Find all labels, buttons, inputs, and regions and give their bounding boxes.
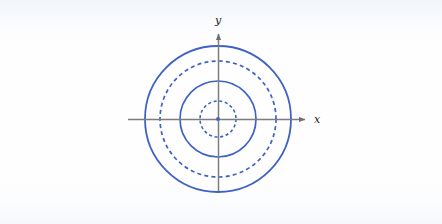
concentric-circles-plot: x y bbox=[0, 0, 442, 224]
axes-group bbox=[128, 34, 305, 191]
figure-root: x y bbox=[0, 0, 442, 224]
x-axis-label: x bbox=[314, 113, 321, 126]
y-axis-label: y bbox=[214, 14, 222, 27]
origin-point bbox=[216, 117, 220, 121]
